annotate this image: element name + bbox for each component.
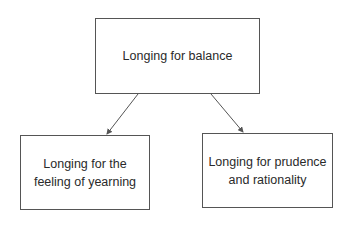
node-root-label: Longing for balance (123, 47, 233, 65)
arrow-root-to-right (211, 94, 243, 132)
node-left-label: Longing for the feeling of yearning (25, 155, 145, 191)
node-right-label: Longing for prudence and rationality (207, 153, 328, 189)
node-right: Longing for prudence and rationality (202, 133, 333, 208)
node-root: Longing for balance (95, 18, 260, 94)
node-left: Longing for the feeling of yearning (20, 135, 150, 210)
arrow-root-to-left (107, 94, 138, 134)
